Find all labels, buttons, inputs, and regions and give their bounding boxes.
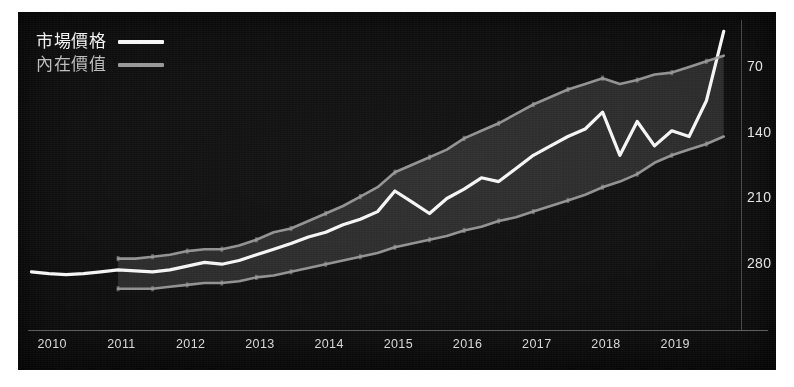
y-tick-140: 210 (747, 189, 771, 205)
series-marker (151, 254, 154, 259)
legend-label-market-price: 市場價格 (36, 30, 106, 53)
x-axis-line (28, 330, 768, 331)
x-tick-2010: 2010 (38, 337, 67, 351)
y-tick-280: 70 (747, 58, 763, 74)
series-marker (220, 247, 223, 252)
legend-swatch-intrinsic-value (118, 63, 164, 67)
series-marker (359, 254, 362, 259)
series-marker (151, 286, 154, 291)
series-marker (601, 185, 604, 190)
series-marker (497, 218, 500, 223)
series-marker (705, 59, 708, 64)
series-marker (290, 269, 293, 274)
series-marker (532, 209, 535, 214)
chart-legend: 市場價格 內在價值 (36, 30, 164, 76)
series-marker (601, 76, 604, 81)
legend-label-intrinsic-value: 內在價值 (36, 53, 106, 76)
x-tick-2012: 2012 (176, 337, 205, 351)
series-marker (636, 78, 639, 83)
series-marker (324, 211, 327, 216)
series-marker (463, 228, 466, 233)
legend-swatch-market-price (118, 40, 164, 44)
y-tick-210: 140 (747, 124, 771, 140)
series-marker (220, 280, 223, 285)
series-marker (394, 170, 397, 175)
series-marker (117, 286, 120, 291)
series-marker (186, 249, 189, 254)
chart-screenshot: 市場價格 內在價值 28021014070 201020112012201320… (0, 0, 794, 387)
series-marker (255, 275, 258, 280)
series-marker (290, 226, 293, 231)
x-tick-2016: 2016 (453, 337, 482, 351)
series-marker (567, 87, 570, 92)
series-marker (428, 155, 431, 160)
series-marker (705, 141, 708, 146)
series-marker (463, 136, 466, 141)
series-marker (670, 70, 673, 75)
legend-item-intrinsic-value: 內在價值 (36, 53, 164, 76)
series-marker (359, 194, 362, 199)
series-marker (567, 198, 570, 203)
series-marker (497, 121, 500, 126)
legend-item-market-price: 市場價格 (36, 30, 164, 53)
x-tick-2014: 2014 (314, 337, 343, 351)
x-tick-2019: 2019 (661, 337, 690, 351)
x-tick-2011: 2011 (107, 337, 135, 351)
chart-panel: 市場價格 內在價值 28021014070 201020112012201320… (18, 12, 776, 370)
y-axis-line (741, 20, 742, 330)
series-marker (117, 256, 120, 261)
series-marker (255, 237, 258, 242)
x-tick-2018: 2018 (591, 337, 620, 351)
x-tick-2013: 2013 (245, 337, 274, 351)
intrinsic-value-band (118, 56, 724, 289)
series-marker (186, 282, 189, 287)
x-tick-2015: 2015 (384, 337, 413, 351)
series-marker (324, 262, 327, 267)
series-marker (428, 237, 431, 242)
x-tick-2017: 2017 (522, 337, 551, 351)
series-marker (532, 102, 535, 107)
series-marker (636, 172, 639, 177)
y-tick-70: 280 (747, 255, 771, 271)
series-marker (670, 153, 673, 158)
series-marker (394, 245, 397, 250)
